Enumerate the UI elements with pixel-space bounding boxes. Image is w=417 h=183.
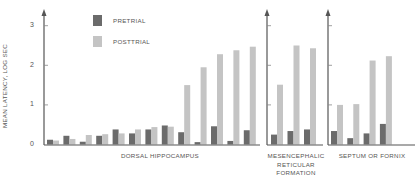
legend-swatch-posttrial <box>93 36 102 47</box>
bar-pretrial <box>113 129 119 144</box>
y-tick-1: 1 <box>24 100 34 107</box>
bar-pretrial <box>195 142 201 144</box>
legend-label-posttrial: POSTTRIAL <box>113 38 150 45</box>
bar-posttrial <box>184 85 190 144</box>
panel2-line2: RETICULAR <box>262 161 330 170</box>
bar-pretrial <box>47 140 53 145</box>
y-axis-label: MEAN LATENCY, LOG SEC <box>1 44 8 128</box>
bar-posttrial <box>119 133 125 144</box>
bar-pretrial <box>129 133 135 144</box>
bar-posttrial <box>86 135 92 145</box>
bar-pretrial <box>63 136 69 145</box>
y-tick-0: 0 <box>24 140 34 147</box>
y-tick-2: 2 <box>24 61 34 68</box>
bar-pretrial <box>288 131 294 144</box>
bar-posttrial <box>386 56 392 144</box>
bar-pretrial <box>211 126 217 144</box>
axis-arrow-icon <box>42 9 47 16</box>
bar-posttrial <box>102 134 108 144</box>
legend-label-pretrial: PRETRIAL <box>113 17 146 24</box>
bar-posttrial <box>310 48 316 144</box>
bar-pretrial <box>244 130 250 144</box>
bar-pretrial <box>364 133 370 144</box>
bar-pretrial <box>178 132 184 144</box>
bar-posttrial <box>233 50 239 144</box>
axis-arrow-icon <box>265 9 270 16</box>
panel-label-mesencephalic-reticular-formation: MESENCEPHALIC RETICULAR FORMATION <box>262 152 330 178</box>
bar-posttrial <box>168 127 174 145</box>
bar-pretrial <box>96 136 102 145</box>
bar-posttrial <box>337 105 343 145</box>
bar-pretrial <box>80 142 86 145</box>
panel2-line1: MESENCEPHALIC <box>262 152 330 161</box>
bar-pretrial <box>227 141 233 145</box>
bar-posttrial <box>277 85 283 145</box>
bar-posttrial <box>353 104 359 144</box>
bar-posttrial <box>151 127 157 144</box>
legend-posttrial: POSTTRIAL <box>93 36 150 47</box>
bar-posttrial <box>135 129 141 144</box>
legend-swatch-pretrial <box>93 15 102 26</box>
bar-pretrial <box>331 131 337 144</box>
bar-posttrial <box>201 67 207 144</box>
bar-pretrial <box>304 129 310 144</box>
bar-pretrial <box>271 135 277 145</box>
bar-pretrial <box>380 124 386 145</box>
panel-label-septum-or-fornix: SEPTUM OR FORNIX <box>330 152 414 161</box>
axis-arrow-icon <box>326 9 331 16</box>
bar-posttrial <box>217 54 223 144</box>
legend-pretrial: PRETRIAL <box>93 15 146 26</box>
bar-posttrial <box>53 141 59 145</box>
bar-pretrial <box>347 138 353 144</box>
bars-group <box>47 46 392 145</box>
panel-label-dorsal-hippocampus: DORSAL HIPPOCAMPUS <box>110 152 210 161</box>
bar-pretrial <box>162 125 168 144</box>
panel2-line3: FORMATION <box>262 169 330 178</box>
bar-posttrial <box>370 61 376 145</box>
bar-pretrial <box>145 129 151 144</box>
bar-posttrial <box>69 139 75 145</box>
bar-posttrial <box>294 46 300 145</box>
bar-posttrial <box>250 47 256 145</box>
y-tick-3: 3 <box>24 21 34 28</box>
